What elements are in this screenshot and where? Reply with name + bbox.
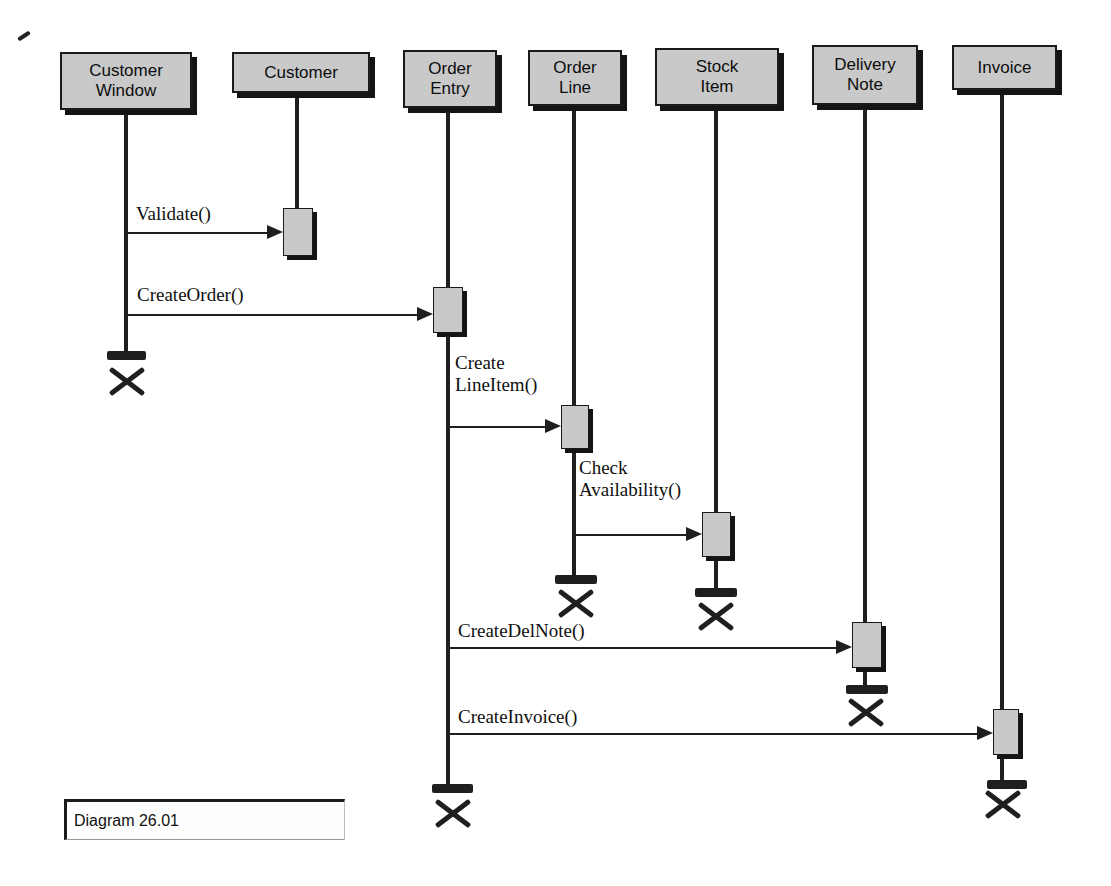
activation-box-delivery-note [852, 622, 882, 668]
actor-box-customer-window: Customer Window [60, 52, 192, 110]
actor-box-order-entry: Order Entry [403, 50, 497, 108]
destruction-bar-stock-item [695, 588, 737, 597]
diagram-caption-text: Diagram 26.01 [74, 812, 179, 830]
message-line-create-order [128, 314, 420, 316]
actor-box-invoice: Invoice [952, 45, 1057, 90]
lifeline-delivery-note [863, 105, 867, 685]
message-line-check-availability [576, 534, 689, 536]
destruction-x-icon-delivery-note [849, 699, 883, 727]
message-label-validate: Validate() [136, 203, 211, 225]
lifeline-order-entry [446, 108, 450, 784]
activation-box-customer [283, 208, 313, 256]
activation-box-stock-item [702, 512, 731, 557]
destruction-x-icon-order-line [559, 590, 593, 618]
destruction-bar-customer-window [107, 351, 146, 360]
message-label-create-order: CreateOrder() [137, 284, 244, 306]
destruction-x-icon-invoice [986, 791, 1020, 819]
message-label-check-availability: Check Availability() [579, 457, 681, 501]
message-arrowhead-icon-create-del-note [836, 640, 852, 654]
destruction-x-icon-order-entry [436, 800, 470, 828]
message-line-create-del-note [450, 647, 839, 649]
diagram-caption-field: Diagram 26.01 [64, 799, 345, 840]
scan-artifact-mark [17, 31, 31, 42]
message-line-create-line-item [450, 426, 548, 428]
message-arrowhead-icon-create-invoice [977, 726, 993, 740]
destruction-bar-order-entry [432, 784, 473, 793]
actor-box-order-line: Order Line [528, 50, 622, 106]
actor-box-customer: Customer [232, 52, 370, 93]
sequence-diagram: Diagram 26.01 Customer WindowCustomerOrd… [0, 0, 1111, 886]
message-line-validate [128, 232, 270, 234]
message-label-create-del-note: CreateDelNote() [458, 620, 585, 642]
lifeline-invoice [1000, 90, 1004, 780]
message-arrowhead-icon-create-order [417, 307, 433, 321]
actor-box-delivery-note: Delivery Note [812, 45, 918, 105]
activation-box-invoice [993, 709, 1019, 755]
message-label-create-line-item: Create LineItem() [455, 352, 537, 396]
message-arrowhead-icon-check-availability [686, 527, 702, 541]
destruction-bar-invoice [987, 780, 1027, 789]
message-line-create-invoice [450, 733, 980, 735]
message-label-create-invoice: CreateInvoice() [458, 706, 577, 728]
activation-box-order-line [561, 405, 589, 449]
message-arrowhead-icon-validate [267, 225, 283, 239]
destruction-bar-order-line [555, 575, 597, 584]
actor-box-stock-item: Stock Item [655, 48, 779, 106]
destruction-bar-delivery-note [846, 685, 888, 694]
destruction-x-icon-customer-window [110, 368, 144, 396]
destruction-x-icon-stock-item [699, 603, 733, 631]
message-arrowhead-icon-create-line-item [545, 419, 561, 433]
lifeline-order-line [572, 106, 576, 575]
activation-box-order-entry [433, 287, 463, 333]
lifeline-customer [295, 93, 299, 208]
